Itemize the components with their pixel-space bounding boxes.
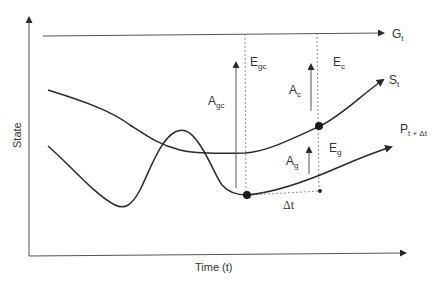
- eg-label: Eg: [329, 142, 341, 157]
- delta-t-end-dot: [318, 189, 322, 193]
- goal-label-main: G: [392, 27, 401, 41]
- dotted-vertical-ec: [317, 33, 319, 191]
- agc-label-sub: gc: [216, 101, 224, 110]
- x-axis-label: Time (t): [195, 262, 232, 273]
- egc-label: Egc: [250, 56, 266, 71]
- ec-label: Ec: [333, 56, 345, 71]
- agc-label: Agc: [208, 95, 224, 110]
- state-time-diagram: [0, 0, 441, 284]
- goal-label: Gt: [392, 28, 404, 43]
- projection-label: Pt + Δt: [400, 123, 427, 138]
- y-axis-label: State: [12, 122, 23, 148]
- ag-label: Ag: [286, 155, 298, 170]
- eg-label-sub: g: [337, 148, 341, 157]
- ec-label-sub: c: [341, 62, 345, 71]
- dotted-vertical-egc: [245, 34, 246, 195]
- goal-label-sub: t: [401, 34, 403, 43]
- agc-label-main: A: [208, 94, 216, 108]
- current-state-dot: [243, 191, 251, 199]
- future-state-dot: [315, 122, 323, 130]
- ag-label-main: A: [286, 154, 294, 168]
- ac-label: Ac: [289, 84, 301, 99]
- ac-label-sub: c: [297, 90, 301, 99]
- egc-label-main: E: [250, 55, 258, 69]
- state-label-main: S: [389, 73, 397, 87]
- eg-label-main: E: [329, 141, 337, 155]
- ec-label-main: E: [333, 55, 341, 69]
- ac-label-main: A: [289, 83, 297, 97]
- state-label: St: [389, 74, 399, 89]
- delta-t-label: Δt: [283, 199, 294, 211]
- goal-line: [43, 33, 383, 36]
- projection-label-main: P: [400, 122, 408, 136]
- x-axis: [29, 253, 405, 256]
- state-label-sub: t: [397, 80, 399, 89]
- projection-label-sub: t + Δt: [408, 129, 427, 138]
- ag-label-sub: g: [294, 161, 298, 170]
- egc-label-sub: gc: [258, 62, 266, 71]
